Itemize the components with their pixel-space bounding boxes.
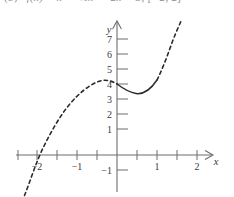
curve-solid-interval <box>117 80 157 94</box>
y-tick-label: 7 <box>107 34 112 45</box>
y-tick-label: 3 <box>107 94 112 105</box>
graph-svg: −2 −1 1 2 7 6 5 4 3 2 1 −1 y x <box>0 10 234 197</box>
y-axis-ticks <box>117 39 128 170</box>
y-tick-label: −1 <box>101 165 112 176</box>
curve-dashed-right <box>157 21 181 80</box>
y-tick-labels: 7 6 5 4 3 2 1 −1 <box>101 34 112 176</box>
graph-figure: −2 −1 1 2 7 6 5 4 3 2 1 −1 y x <box>0 10 234 197</box>
x-tick-label: 2 <box>195 161 200 172</box>
y-axis-label: y <box>106 24 112 35</box>
axes <box>16 21 213 192</box>
header-expression-body: f(x) = x³ + ½x² − 2x + 5, [−2, 2] <box>27 0 182 3</box>
y-tick-label: 1 <box>107 124 112 135</box>
header-expression-label: (b) <box>4 0 18 3</box>
y-tick-label: 5 <box>107 64 112 75</box>
header-expression: (b)f(x) = x³ + ½x² − 2x + 5, [−2, 2] <box>4 0 230 7</box>
x-tick-labels: −2 −1 1 2 <box>32 161 200 172</box>
x-axis-label: x <box>213 156 219 167</box>
x-tick-label: 1 <box>155 161 160 172</box>
curve-dashed-left <box>25 80 118 195</box>
x-tick-label: −1 <box>72 161 83 172</box>
y-tick-label: 6 <box>107 49 112 60</box>
y-tick-label: 2 <box>107 109 112 120</box>
